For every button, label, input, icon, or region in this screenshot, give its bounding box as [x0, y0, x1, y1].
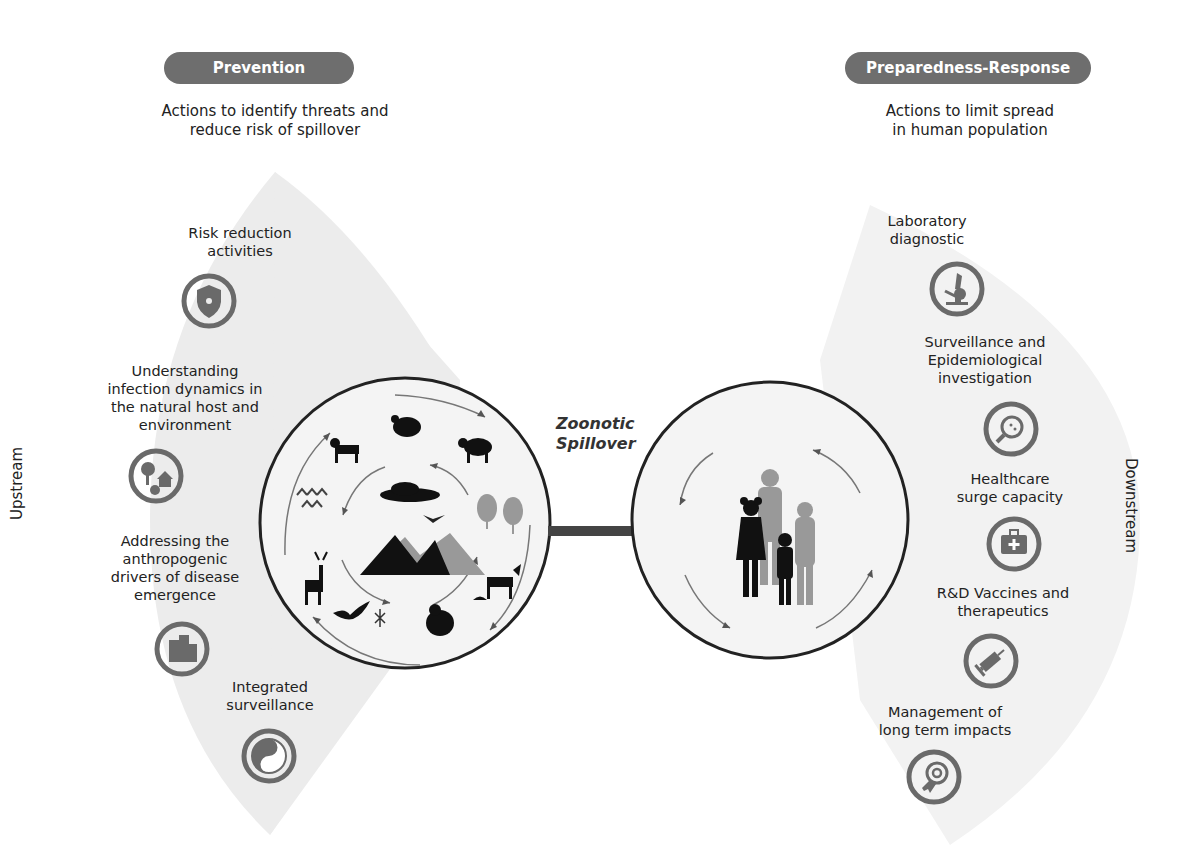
spillover-line1: Zoonotic	[556, 414, 636, 434]
item-label-line: Healthcare	[950, 470, 1070, 488]
response-item-surveillance-epidemiological: Surveillance and Epidemiological investi…	[910, 333, 1060, 387]
human-population-circle	[630, 365, 910, 675]
item-label-line: Surveillance and	[910, 333, 1060, 351]
upstream-label: Upstream	[8, 447, 26, 520]
response-item-long-term-impacts: Management of long term impacts	[870, 703, 1020, 739]
response-item-rd-vaccines: R&D Vaccines and therapeutics	[928, 584, 1078, 620]
prevention-item-risk-reduction: Risk reduction activities	[160, 224, 320, 260]
item-label-line: long term impacts	[870, 721, 1020, 739]
item-label-line: Laboratory	[872, 212, 982, 230]
item-label-line: emergence	[95, 586, 255, 604]
item-label-line: drivers of disease	[95, 568, 255, 586]
item-label-line: activities	[160, 242, 320, 260]
item-label-line: Addressing the	[95, 532, 255, 550]
item-label-line: surge capacity	[950, 488, 1070, 506]
item-label-line: R&D Vaccines and	[928, 584, 1078, 602]
animal-ecosystem-circle	[255, 365, 555, 685]
item-label-line: therapeutics	[928, 602, 1078, 620]
item-label-line: investigation	[910, 369, 1060, 387]
item-label-line: Management of	[870, 703, 1020, 721]
item-label-line: Epidemiological	[910, 351, 1060, 369]
zoonotic-spillover-label: Zoonotic Spillover	[556, 414, 636, 454]
response-item-healthcare-surge: Healthcare surge capacity	[950, 470, 1070, 506]
prevention-subtitle: Actions to identify threats and reduce r…	[120, 102, 430, 140]
medical-kit-icon	[985, 515, 1043, 573]
yin-yang-icon	[240, 727, 298, 785]
preparedness-response-pill: Preparedness-Response	[845, 52, 1091, 84]
prevention-item-anthropogenic-drivers: Addressing the anthropogenic drivers of …	[95, 532, 255, 604]
prevention-subtitle-line2: reduce risk of spillover	[120, 121, 430, 140]
response-subtitle-line1: Actions to limit spread	[860, 102, 1080, 121]
response-subtitle: Actions to limit spread in human populat…	[860, 102, 1080, 140]
item-label-line: Risk reduction	[160, 224, 320, 242]
response-item-laboratory-diagnostic: Laboratory diagnostic	[872, 212, 982, 248]
magnifier-cell-icon	[982, 400, 1040, 458]
prevention-subtitle-line1: Actions to identify threats and	[120, 102, 430, 121]
item-label-line: anthropogenic	[95, 550, 255, 568]
buildings-icon	[153, 620, 211, 678]
spillover-line2: Spillover	[556, 434, 636, 454]
shield-icon	[180, 272, 238, 330]
response-subtitle-line2: in human population	[860, 121, 1080, 140]
prevention-pill: Prevention	[164, 52, 354, 84]
target-ribbon-icon	[905, 748, 963, 806]
item-label-line: surveillance	[205, 696, 335, 714]
item-label-line: diagnostic	[872, 230, 982, 248]
syringe-icon	[962, 632, 1020, 690]
microscope-icon	[928, 260, 986, 318]
downstream-label: Downstream	[1122, 458, 1140, 553]
tree-house-icon	[127, 447, 185, 505]
